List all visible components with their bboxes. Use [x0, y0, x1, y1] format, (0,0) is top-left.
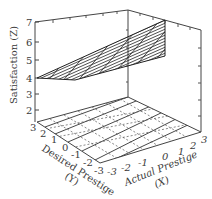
top-edge-ticks	[53, 11, 190, 30]
z-tick-6: 6	[26, 37, 32, 48]
y-tick-0: 0	[62, 142, 68, 153]
z-tick-4: 4	[26, 73, 32, 84]
z-tick-labels: 7 6 5 4 3 2	[26, 17, 32, 116]
y-tick-2: 2	[40, 128, 46, 139]
z-axis-label: Satisfaction (Z)	[8, 26, 19, 104]
3d-surface-chart: 7 6 5 4 3 2 Satisfaction (Z)	[0, 0, 212, 199]
y-tick-1: 1	[51, 134, 57, 145]
x-tick-neg3: -3	[107, 166, 117, 177]
z-tick-2: 2	[26, 105, 32, 116]
x-axis-var: (X)	[153, 174, 171, 190]
y-tick-neg1: -1	[71, 149, 81, 160]
z-tick-3: 3	[26, 89, 32, 100]
x-tick-neg2: -2	[121, 162, 131, 173]
z-axis-ticks	[35, 22, 39, 110]
x-tick-neg1: -1	[138, 157, 148, 168]
z-tick-5: 5	[26, 55, 32, 66]
x-tick-3: 3	[201, 134, 207, 145]
y-tick-3: 3	[30, 122, 36, 133]
vertical-ticks	[126, 30, 201, 116]
z-tick-7: 7	[26, 17, 32, 28]
axis-frame	[35, 10, 201, 163]
